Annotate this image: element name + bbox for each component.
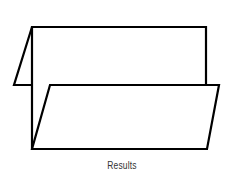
- diagram-caption: Results: [18, 160, 225, 171]
- left-flap: [14, 27, 32, 85]
- front-panel: [32, 85, 219, 149]
- folded-sheet-diagram: [0, 0, 232, 187]
